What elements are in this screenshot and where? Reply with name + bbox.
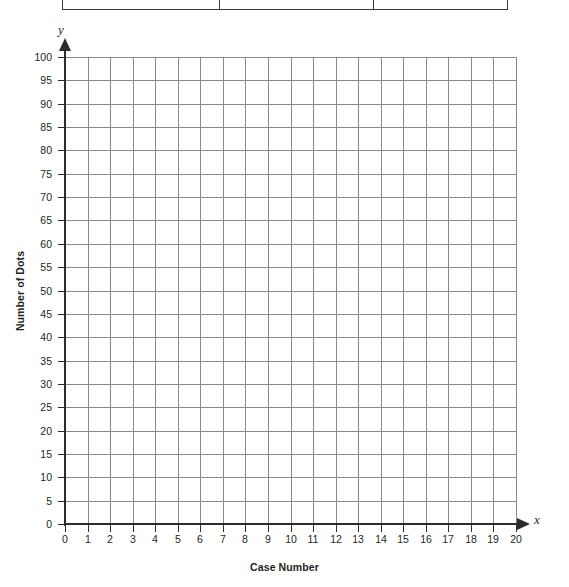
grid-horizontal-line xyxy=(65,291,516,292)
grid-horizontal-line xyxy=(65,174,516,175)
y-tick-mark xyxy=(58,57,65,58)
y-tick-label: 60 xyxy=(26,239,52,250)
x-tick-mark xyxy=(493,525,494,532)
x-tick-mark xyxy=(336,525,337,532)
y-tick-label: 65 xyxy=(26,215,52,226)
grid-horizontal-line xyxy=(65,501,516,502)
grid-horizontal-line xyxy=(65,314,516,315)
y-tick-mark xyxy=(58,267,65,268)
x-tick-mark xyxy=(291,525,292,532)
y-tick-mark xyxy=(58,454,65,455)
x-tick-label: 20 xyxy=(503,534,529,545)
y-tick-mark xyxy=(58,501,65,502)
x-tick-mark xyxy=(268,525,269,532)
x-tick-mark xyxy=(245,525,246,532)
y-tick-label: 70 xyxy=(26,192,52,203)
y-tick-label: 20 xyxy=(26,426,52,437)
x-tick-mark xyxy=(133,525,134,532)
y-tick-label: 10 xyxy=(26,472,52,483)
x-tick-mark xyxy=(516,525,517,532)
y-tick-mark xyxy=(58,150,65,151)
y-tick-mark xyxy=(58,431,65,432)
x-tick-mark xyxy=(448,525,449,532)
grid-horizontal-line xyxy=(65,407,516,408)
y-axis-title: Number of Dots xyxy=(14,231,26,351)
y-tick-mark xyxy=(58,174,65,175)
x-tick-mark xyxy=(313,525,314,532)
grid-horizontal-line xyxy=(65,361,516,362)
grid-horizontal-line xyxy=(65,431,516,432)
y-tick-mark xyxy=(58,127,65,128)
x-axis-letter: x xyxy=(534,512,540,528)
x-tick-mark xyxy=(403,525,404,532)
y-axis-arrow-icon xyxy=(59,38,71,51)
y-tick-label: 25 xyxy=(26,402,52,413)
grid-horizontal-line xyxy=(65,477,516,478)
grid-horizontal-line xyxy=(65,127,516,128)
y-tick-label: 5 xyxy=(26,496,52,507)
y-tick-label: 35 xyxy=(26,356,52,367)
x-axis-arrow-icon xyxy=(517,518,530,530)
grid-horizontal-line xyxy=(65,267,516,268)
y-tick-label: 15 xyxy=(26,449,52,460)
y-tick-mark xyxy=(58,197,65,198)
x-axis-title: Case Number xyxy=(0,561,569,573)
y-tick-mark xyxy=(58,337,65,338)
y-tick-label: 40 xyxy=(26,332,52,343)
y-tick-mark xyxy=(58,80,65,81)
y-tick-label: 0 xyxy=(26,519,52,530)
x-tick-mark xyxy=(471,525,472,532)
grid-horizontal-line xyxy=(65,80,516,81)
y-tick-mark xyxy=(58,314,65,315)
x-tick-mark xyxy=(155,525,156,532)
x-tick-mark xyxy=(200,525,201,532)
y-tick-label: 45 xyxy=(26,309,52,320)
grid-vertical-line xyxy=(516,57,517,524)
y-axis-letter: y xyxy=(58,22,64,38)
y-tick-label: 50 xyxy=(26,286,52,297)
y-tick-mark xyxy=(58,244,65,245)
coordinate-grid-chart: y x 051015202530354045505560657075808590… xyxy=(0,0,569,587)
y-tick-mark xyxy=(58,104,65,105)
y-tick-mark xyxy=(58,407,65,408)
x-tick-mark xyxy=(65,525,66,532)
grid-horizontal-line xyxy=(65,104,516,105)
y-tick-label: 100 xyxy=(26,52,52,63)
y-tick-label: 90 xyxy=(26,99,52,110)
y-tick-mark xyxy=(58,291,65,292)
grid-horizontal-line xyxy=(65,454,516,455)
x-tick-mark xyxy=(110,525,111,532)
x-tick-mark xyxy=(381,525,382,532)
grid-horizontal-line xyxy=(65,150,516,151)
y-tick-label: 75 xyxy=(26,169,52,180)
grid-horizontal-line xyxy=(65,244,516,245)
grid-horizontal-line xyxy=(65,197,516,198)
y-tick-label: 55 xyxy=(26,262,52,273)
y-tick-label: 30 xyxy=(26,379,52,390)
y-tick-label: 95 xyxy=(26,75,52,86)
y-tick-mark xyxy=(58,477,65,478)
x-tick-mark xyxy=(88,525,89,532)
y-tick-mark xyxy=(58,384,65,385)
grid-horizontal-line xyxy=(65,337,516,338)
y-tick-mark xyxy=(58,524,65,525)
x-tick-mark xyxy=(223,525,224,532)
y-tick-mark xyxy=(58,220,65,221)
x-tick-mark xyxy=(426,525,427,532)
grid-area xyxy=(65,57,516,524)
y-tick-mark xyxy=(58,361,65,362)
x-tick-mark xyxy=(358,525,359,532)
grid-horizontal-line xyxy=(65,57,516,58)
grid-horizontal-line xyxy=(65,384,516,385)
x-tick-mark xyxy=(178,525,179,532)
y-tick-label: 80 xyxy=(26,145,52,156)
grid-horizontal-line xyxy=(65,220,516,221)
y-tick-label: 85 xyxy=(26,122,52,133)
